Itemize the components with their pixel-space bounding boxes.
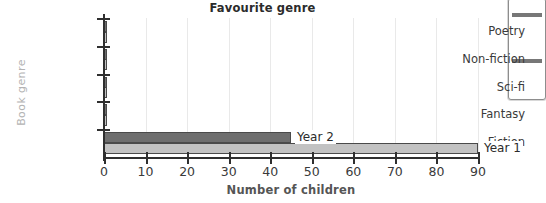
y-axis-title: Book genre — [15, 38, 28, 148]
x-tick-mark — [229, 152, 231, 164]
series-label-year-2: Year 2 — [295, 130, 336, 144]
y-tick-mark — [97, 129, 110, 131]
y-tick-mark — [97, 46, 110, 48]
x-tick-label-30: 30 — [209, 164, 249, 179]
x-axis-title: Number of children — [104, 183, 478, 197]
y-tick-label-poetry: Poetry — [429, 24, 525, 38]
x-tick-label-80: 80 — [416, 164, 456, 179]
x-tick-mark — [104, 152, 106, 164]
y-tick-label-fantasy: Fantasy — [429, 107, 525, 121]
x-tick-label-50: 50 — [292, 164, 332, 179]
x-tick-mark — [395, 152, 397, 164]
x-tick-mark — [312, 152, 314, 164]
x-tick-mark — [270, 152, 272, 164]
y-axis-line — [103, 14, 105, 161]
x-tick-mark — [436, 152, 438, 164]
category-lane-non-fiction — [104, 46, 478, 74]
category-lane-fiction — [104, 129, 478, 157]
y-tick-label-non-fiction: Non-fiction — [429, 52, 525, 66]
y-tick-mark — [97, 74, 110, 76]
x-tick-mark — [478, 152, 480, 164]
plot-area — [104, 18, 478, 157]
y-tick-mark — [97, 101, 110, 103]
x-tick-mark — [187, 152, 189, 164]
category-lane-sci-fi — [104, 74, 478, 102]
x-tick-label-70: 70 — [375, 164, 415, 179]
panel-row — [512, 13, 542, 17]
series-label-year-1: Year 1 — [482, 141, 523, 155]
bar-year-1-fiction[interactable] — [104, 143, 478, 154]
x-tick-mark — [353, 152, 355, 164]
y-tick-label-sci-fi: Sci-fi — [429, 80, 525, 94]
x-tick-label-10: 10 — [126, 164, 166, 179]
x-tick-mark — [146, 152, 148, 164]
chart-title: Favourite genre — [0, 1, 525, 15]
x-tick-label-0: 0 — [84, 164, 124, 179]
x-tick-label-40: 40 — [250, 164, 290, 179]
x-tick-label-20: 20 — [167, 164, 207, 179]
x-tick-label-60: 60 — [333, 164, 373, 179]
category-lane-poetry — [104, 18, 478, 46]
x-tick-label-90: 90 — [458, 164, 498, 179]
x-axis-line — [103, 157, 480, 159]
category-lane-fantasy — [104, 101, 478, 129]
y-tick-mark — [97, 18, 110, 20]
bar-year-2-fiction[interactable] — [104, 132, 291, 143]
